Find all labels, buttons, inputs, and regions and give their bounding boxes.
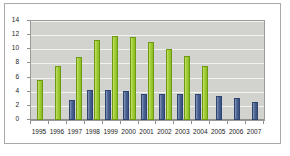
y-axis-tick-label: 4 bbox=[0, 88, 19, 95]
bar-group bbox=[85, 21, 103, 120]
bar-group bbox=[121, 21, 139, 120]
bar-group bbox=[246, 21, 264, 120]
bar-green-2001[interactable] bbox=[148, 42, 154, 120]
x-axis-tick-mark bbox=[138, 121, 139, 124]
x-axis-tick-mark bbox=[227, 121, 228, 124]
x-axis-tick-mark bbox=[191, 121, 192, 124]
bar-blue-1999[interactable] bbox=[105, 90, 111, 120]
bar-group bbox=[67, 21, 85, 120]
bar-green-1997[interactable] bbox=[76, 57, 82, 120]
bar-chart: 02468101214 1995199619971998199920002001… bbox=[5, 4, 282, 145]
y-axis-tick-label: 12 bbox=[0, 31, 19, 38]
bar-green-1999[interactable] bbox=[112, 36, 118, 120]
bar-green-2000[interactable] bbox=[130, 37, 136, 120]
bar-blue-1997[interactable] bbox=[69, 100, 75, 120]
bar-group bbox=[103, 21, 121, 120]
x-axis-tick-mark bbox=[84, 121, 85, 124]
chart-frame: 02468101214 1995199619971998199920002001… bbox=[4, 3, 281, 144]
bar-group bbox=[156, 21, 174, 120]
x-axis-tick-mark bbox=[120, 121, 121, 124]
bar-blue-2006[interactable] bbox=[234, 98, 240, 120]
bar-blue-2001[interactable] bbox=[141, 94, 147, 120]
x-axis-tick-mark bbox=[173, 121, 174, 124]
x-axis-tick-mark bbox=[102, 121, 103, 124]
bar-blue-2003[interactable] bbox=[177, 94, 183, 120]
bar-green-1998[interactable] bbox=[94, 40, 100, 120]
bar-blue-2000[interactable] bbox=[123, 91, 129, 120]
bar-blue-2002[interactable] bbox=[159, 94, 165, 120]
plot-area bbox=[30, 20, 265, 121]
bar-green-2002[interactable] bbox=[166, 49, 172, 120]
bar-blue-2005[interactable] bbox=[216, 96, 222, 120]
y-axis-tick-label: 6 bbox=[0, 74, 19, 81]
x-axis-tick-mark bbox=[30, 121, 31, 124]
bar-group bbox=[31, 21, 49, 120]
bar-green-2003[interactable] bbox=[184, 56, 190, 120]
x-axis-label-2007: 2007 bbox=[242, 128, 266, 135]
bar-group bbox=[228, 21, 246, 120]
x-axis-tick-mark bbox=[48, 121, 49, 124]
bar-group bbox=[174, 21, 192, 120]
bar-blue-2007[interactable] bbox=[252, 102, 258, 120]
y-axis-tick-label: 10 bbox=[0, 45, 19, 52]
y-axis-tick-label: 0 bbox=[0, 116, 19, 123]
x-axis-tick-mark bbox=[155, 121, 156, 124]
bar-green-1995[interactable] bbox=[37, 80, 43, 120]
x-axis-tick-mark bbox=[209, 121, 210, 124]
bar-blue-1998[interactable] bbox=[87, 90, 93, 120]
bar-group bbox=[49, 21, 67, 120]
bar-group bbox=[139, 21, 157, 120]
bar-green-1996[interactable] bbox=[55, 66, 61, 120]
y-axis-tick-label: 14 bbox=[0, 17, 19, 24]
x-axis-tick-mark bbox=[66, 121, 67, 124]
bar-green-2004[interactable] bbox=[202, 66, 208, 120]
x-axis-tick-mark bbox=[263, 121, 264, 124]
bar-group bbox=[192, 21, 210, 120]
bar-blue-2004[interactable] bbox=[195, 94, 201, 120]
x-axis-tick-mark bbox=[245, 121, 246, 124]
bar-group bbox=[210, 21, 228, 120]
y-axis-tick-label: 8 bbox=[0, 59, 19, 66]
y-axis-tick-label: 2 bbox=[0, 102, 19, 109]
